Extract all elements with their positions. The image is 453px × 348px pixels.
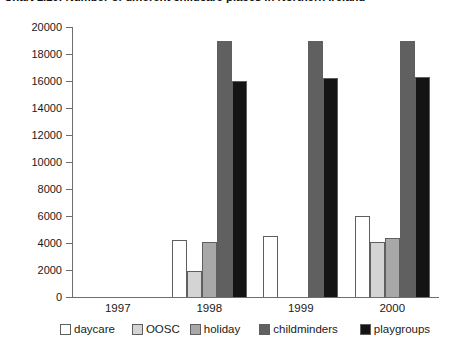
y-axis-tick-label: 2000 xyxy=(38,264,62,276)
bar xyxy=(202,242,217,297)
y-axis-tick-label: 20000 xyxy=(31,21,62,33)
y-axis-tick-label: 14000 xyxy=(31,102,62,114)
legend-item: playgroups xyxy=(360,323,430,335)
x-axis-tick-label: 1999 xyxy=(288,302,314,314)
bar xyxy=(172,240,187,297)
bar-group xyxy=(255,27,347,297)
y-axis-tick-label: 8000 xyxy=(38,183,62,195)
y-axis-tick-label: 16000 xyxy=(31,75,62,87)
y-axis-tick-label: 0 xyxy=(56,291,62,303)
x-axis-tick-label: 2000 xyxy=(379,302,405,314)
legend-item: OOSC xyxy=(132,323,180,335)
legend-item: daycare xyxy=(60,323,115,335)
bar xyxy=(355,216,370,297)
plot-area: 0200040006000800010000120001400016000180… xyxy=(72,27,438,297)
bar xyxy=(400,41,415,298)
legend-label: daycare xyxy=(74,323,115,335)
chart-title: Chart 1.10: Number of different childcar… xyxy=(4,0,449,3)
legend-swatch xyxy=(259,324,270,335)
legend-label: playgroups xyxy=(374,323,430,335)
y-axis-tick-label: 12000 xyxy=(31,129,62,141)
legend-swatch xyxy=(360,324,371,335)
legend-swatch xyxy=(190,324,201,335)
bar-group xyxy=(164,27,256,297)
bar xyxy=(263,236,278,297)
bar xyxy=(415,77,430,297)
y-axis-tick-label: 4000 xyxy=(38,237,62,249)
legend-swatch xyxy=(132,324,143,335)
bar xyxy=(323,78,338,297)
bar xyxy=(308,41,323,298)
y-axis-tick xyxy=(66,297,72,298)
legend-label: childminders xyxy=(273,323,338,335)
y-axis-tick-label: 10000 xyxy=(31,156,62,168)
x-axis-tick-label: 1997 xyxy=(105,302,131,314)
legend-swatch xyxy=(60,324,71,335)
bar xyxy=(232,81,247,297)
y-axis-tick-label: 18000 xyxy=(31,48,62,60)
bar-group xyxy=(72,27,164,297)
bar xyxy=(370,242,385,297)
bar-group xyxy=(347,27,439,297)
bar xyxy=(217,41,232,298)
legend-item: childminders xyxy=(259,323,338,335)
legend-label: OOSC xyxy=(146,323,180,335)
bar xyxy=(187,271,202,297)
legend-label: holiday xyxy=(204,323,240,335)
x-axis-tick-label: 1998 xyxy=(196,302,222,314)
y-axis-tick-label: 6000 xyxy=(38,210,62,222)
chart-container: Chart 1.10: Number of different childcar… xyxy=(0,0,453,348)
legend-item: holiday xyxy=(190,323,240,335)
chart-legend: daycareOOSCholidaychildmindersplaygroups xyxy=(60,321,445,337)
x-axis-line xyxy=(72,297,439,298)
bar xyxy=(385,238,400,297)
